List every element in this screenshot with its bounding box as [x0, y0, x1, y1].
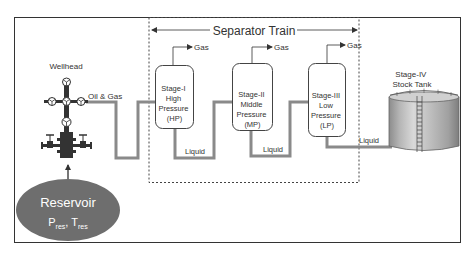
liquid-label-mp: Liquid [263, 145, 283, 154]
separator-stage-1: Stage-I High Pressure (HP) [156, 66, 194, 129]
separator-train-title: Separator Train [213, 24, 296, 38]
liquid-label-hp: Liquid [185, 147, 205, 156]
separator-stage-3: Stage-III Low Pressure (LP) [309, 64, 346, 137]
liquid-label-lp: Liquid [359, 136, 379, 145]
stock-tank-label: Stage-IV Stock Tank [393, 70, 433, 89]
reservoir: Reservoir Pres, Tres [16, 179, 120, 241]
reservoir-label: Reservoir [40, 195, 96, 210]
stock-tank-icon [389, 89, 459, 153]
gas-label-lp: Gas [347, 41, 362, 50]
gas-label-hp: Gas [194, 43, 209, 52]
gas-label-mp: Gas [274, 43, 289, 52]
separator-train-diagram: Separator Train Gas Gas Gas Stage-I High… [0, 0, 472, 256]
wellhead-label: Wellhead [49, 62, 82, 71]
separator-stage-2: Stage-II Middle Pressure (MP) [233, 64, 273, 131]
oil-gas-label: Oil & Gas [88, 92, 122, 101]
